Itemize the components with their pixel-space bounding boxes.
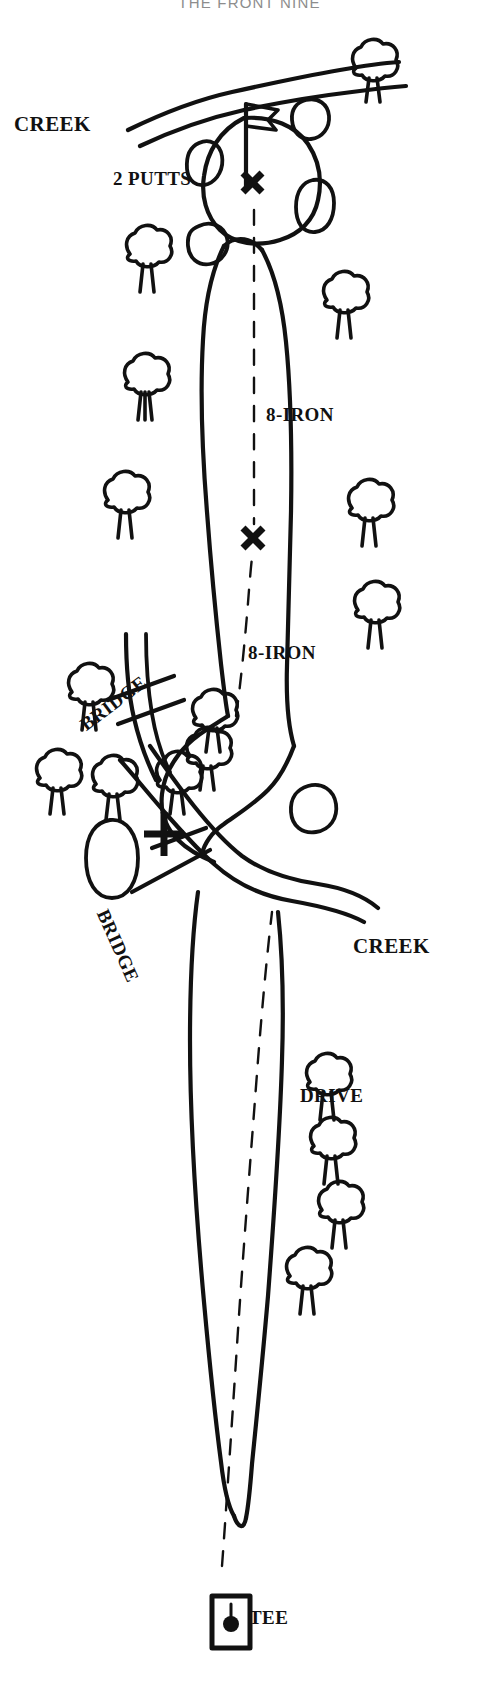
fairway-lower-shape	[190, 892, 283, 1526]
label-two-putts: 2 PUTTS	[113, 168, 191, 190]
tree-icon	[105, 471, 150, 538]
label-drive: DRIVE	[300, 1085, 363, 1107]
bridge-lower-structure	[132, 828, 210, 892]
tree-icon	[287, 1247, 332, 1314]
ball-marker-fairway	[243, 528, 263, 548]
hole-diagram-page: THE FRONT NINE	[0, 0, 499, 1686]
bunker-fairway-upper-left	[188, 224, 228, 265]
tree-icon	[319, 1181, 364, 1248]
creek-top-shape	[128, 62, 406, 146]
fairway-upper-shape	[202, 239, 294, 746]
label-eight-iron-approach: 8-IRON	[266, 404, 334, 426]
tree-icon	[125, 353, 170, 420]
shot-line-layup	[236, 552, 253, 716]
tree-icon	[93, 755, 138, 820]
tree-icon	[355, 581, 400, 648]
golf-hole-map	[0, 0, 499, 1686]
label-tee: TEE	[249, 1607, 288, 1629]
label-eight-iron-layup: 8-IRON	[248, 642, 316, 664]
label-creek-bottom: CREEK	[353, 934, 430, 959]
tree-icon	[349, 479, 394, 546]
bunker-left-pond	[86, 820, 138, 898]
tree-icon	[127, 225, 172, 292]
tree-icon	[324, 271, 369, 338]
tree-icon	[37, 749, 82, 814]
label-creek-top: CREEK	[14, 112, 91, 137]
shot-line-drive	[222, 912, 272, 1566]
tee-box-marker	[212, 1596, 250, 1648]
bunker-fairway-lower-right	[291, 785, 336, 832]
bunker-green-upper-right	[292, 99, 329, 139]
tree-icon	[311, 1117, 356, 1184]
